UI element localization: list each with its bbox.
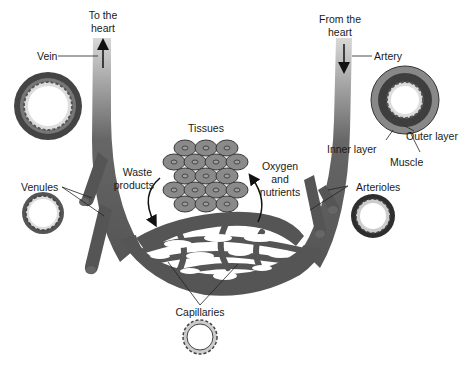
svg-text:heart: heart xyxy=(328,26,352,38)
svg-text:products: products xyxy=(114,179,154,191)
label-from-heart: From the xyxy=(319,13,361,25)
svg-text:heart: heart xyxy=(91,22,115,34)
arteriole-cross-section xyxy=(351,194,395,238)
label-capillaries: Capillaries xyxy=(175,306,224,318)
svg-text:nutrients: nutrients xyxy=(260,186,300,198)
label-artery: Artery xyxy=(374,50,403,62)
label-vein: Vein xyxy=(37,50,58,62)
label-oxygen: Oxygen xyxy=(262,160,298,172)
label-tissues: Tissues xyxy=(188,122,224,134)
circulation-diagram: To the heart From the heart Vein Artery … xyxy=(0,0,468,367)
label-to-heart: To the xyxy=(89,9,118,21)
svg-text:and: and xyxy=(271,173,289,185)
capillary-cross-section xyxy=(183,320,217,354)
venule-branch-lower xyxy=(85,204,112,274)
tissue-cells xyxy=(163,140,248,212)
label-inner-layer: Inner layer xyxy=(327,143,377,155)
vein-cross-section xyxy=(14,72,82,140)
label-outer-layer: Outer layer xyxy=(406,130,458,142)
venule-cross-section xyxy=(22,192,64,234)
label-venules: Venules xyxy=(21,181,58,193)
label-waste: Waste xyxy=(123,166,153,178)
artery-cross-section xyxy=(371,66,439,134)
label-muscle: Muscle xyxy=(390,156,423,168)
label-arterioles: Arterioles xyxy=(356,181,400,193)
